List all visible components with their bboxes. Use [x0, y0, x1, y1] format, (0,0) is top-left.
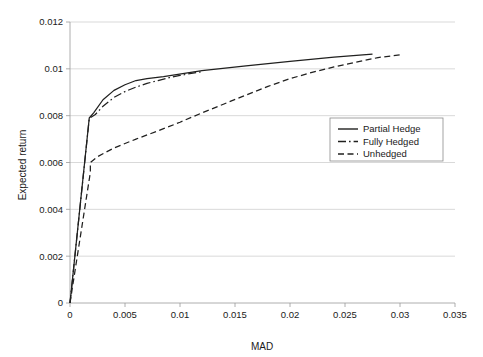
series-line-partial-hedge — [70, 54, 373, 303]
series-line-fully-hedged — [70, 72, 202, 303]
series-line-unhedged — [70, 55, 400, 303]
chart-container: 00.0020.0040.0060.0080.010.012 00.0050.0… — [0, 0, 483, 357]
y-tick-label: 0.01 — [45, 63, 64, 74]
data-series — [70, 54, 400, 303]
x-axis-tick-labels: 00.0050.010.0150.020.0250.030.035 — [67, 309, 467, 320]
legend[interactable]: Partial HedgeFully HedgedUnhedged — [330, 118, 443, 161]
y-tick-label: 0.012 — [39, 16, 63, 27]
x-tick-label: 0.01 — [171, 309, 190, 320]
legend-label-fully-hedged: Fully Hedged — [363, 136, 419, 147]
x-tick-label: 0.015 — [223, 309, 247, 320]
legend-label-unhedged: Unhedged — [363, 148, 407, 159]
x-tick-label: 0.035 — [443, 309, 467, 320]
x-tick-label: 0.005 — [113, 309, 137, 320]
legend-label-partial-hedge: Partial Hedge — [363, 123, 421, 134]
x-tick-label: 0.025 — [333, 309, 357, 320]
x-tick-label: 0.03 — [391, 309, 410, 320]
y-tick-label: 0 — [58, 297, 63, 308]
line-chart: 00.0020.0040.0060.0080.010.012 00.0050.0… — [0, 0, 483, 357]
x-tick-label: 0 — [67, 309, 72, 320]
y-tick-label: 0.004 — [39, 204, 63, 215]
x-tick-label: 0.02 — [281, 309, 300, 320]
y-tick-label: 0.008 — [39, 110, 63, 121]
y-axis-tick-labels: 00.0020.0040.0060.0080.010.012 — [39, 16, 63, 308]
x-axis-title: MAD — [251, 341, 273, 352]
y-axis-title: Expected return — [17, 130, 28, 201]
y-tick-label: 0.006 — [39, 157, 63, 168]
y-tick-label: 0.002 — [39, 251, 63, 262]
